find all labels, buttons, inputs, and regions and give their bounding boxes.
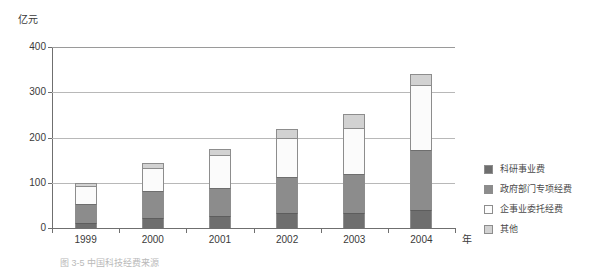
bar-segment[interactable]	[276, 177, 298, 213]
bar-segment[interactable]	[343, 114, 365, 128]
bar-2001[interactable]	[209, 149, 231, 228]
plot-area	[52, 47, 455, 228]
x-tick-label-2000: 2000	[125, 234, 181, 246]
y-tick-label-200: 200	[12, 133, 46, 143]
bar-2004[interactable]	[410, 74, 432, 228]
legend-label: 政府部门专项经费	[500, 184, 572, 195]
legend-item-1[interactable]: 科研事业费	[484, 159, 596, 179]
gridline-200	[52, 138, 455, 139]
bar-segment[interactable]	[410, 150, 432, 210]
bar-segment[interactable]	[276, 129, 298, 139]
x-tick-mark	[388, 229, 389, 233]
y-axis-unit-label: 亿元	[18, 14, 38, 26]
bar-segment[interactable]	[142, 191, 164, 218]
gridline-300	[52, 92, 455, 93]
bar-segment[interactable]	[209, 149, 231, 155]
bar-segment[interactable]	[75, 186, 97, 204]
stacked-bar-chart: 亿元 0100200300400 19992000200120022003200…	[0, 0, 598, 269]
bar-segment[interactable]	[75, 204, 97, 222]
legend-swatch-icon	[484, 225, 493, 234]
bar-segment[interactable]	[343, 174, 365, 213]
bar-segment[interactable]	[343, 213, 365, 228]
bar-2003[interactable]	[343, 114, 365, 228]
y-tick-label-300: 300	[12, 87, 46, 97]
bar-segment[interactable]	[75, 223, 97, 228]
bar-segment[interactable]	[410, 74, 432, 84]
x-tick-mark	[119, 229, 120, 233]
bar-2000[interactable]	[142, 163, 164, 228]
legend-item-3[interactable]: 企事业委托经费	[484, 199, 596, 219]
x-axis-unit-label: 年	[462, 234, 472, 246]
bar-segment[interactable]	[276, 138, 298, 176]
bar-segment[interactable]	[410, 210, 432, 228]
x-tick-label-2002: 2002	[259, 234, 315, 246]
figure-caption: 图 3-5 中国科技经费来源	[60, 258, 159, 269]
x-tick-label-2003: 2003	[326, 234, 382, 246]
legend-item-4[interactable]: 其他	[484, 219, 596, 239]
x-tick-mark	[52, 229, 53, 233]
legend-swatch-icon	[484, 185, 493, 194]
bar-segment[interactable]	[209, 155, 231, 188]
legend-swatch-icon	[484, 165, 493, 174]
bar-segment[interactable]	[276, 213, 298, 228]
x-tick-label-2001: 2001	[192, 234, 248, 246]
bar-segment[interactable]	[343, 128, 365, 174]
bar-2002[interactable]	[276, 129, 298, 228]
legend-label: 其他	[500, 224, 518, 235]
bar-segment[interactable]	[142, 168, 164, 191]
x-tick-mark	[455, 229, 456, 233]
gridline-400	[52, 47, 455, 48]
chart-legend: 科研事业费政府部门专项经费企事业委托经费其他	[484, 159, 596, 239]
legend-label: 企事业委托经费	[500, 204, 563, 215]
y-tick-label-400: 400	[12, 42, 46, 52]
bar-segment[interactable]	[410, 85, 432, 151]
x-tick-label-2004: 2004	[393, 234, 449, 246]
y-tick-label-0: 0	[12, 223, 46, 233]
bar-segment[interactable]	[209, 216, 231, 228]
bar-segment[interactable]	[209, 188, 231, 216]
x-tick-label-1999: 1999	[58, 234, 114, 246]
legend-swatch-icon	[484, 205, 493, 214]
y-tick-label-100: 100	[12, 178, 46, 188]
x-tick-mark	[321, 229, 322, 233]
bar-segment[interactable]	[142, 163, 164, 168]
bar-segment[interactable]	[142, 218, 164, 228]
x-tick-mark	[186, 229, 187, 233]
bar-segment[interactable]	[75, 183, 97, 187]
legend-label: 科研事业费	[500, 164, 545, 175]
gridline-100	[52, 183, 455, 184]
bar-1999[interactable]	[75, 183, 97, 228]
legend-item-2[interactable]: 政府部门专项经费	[484, 179, 596, 199]
x-tick-mark	[254, 229, 255, 233]
